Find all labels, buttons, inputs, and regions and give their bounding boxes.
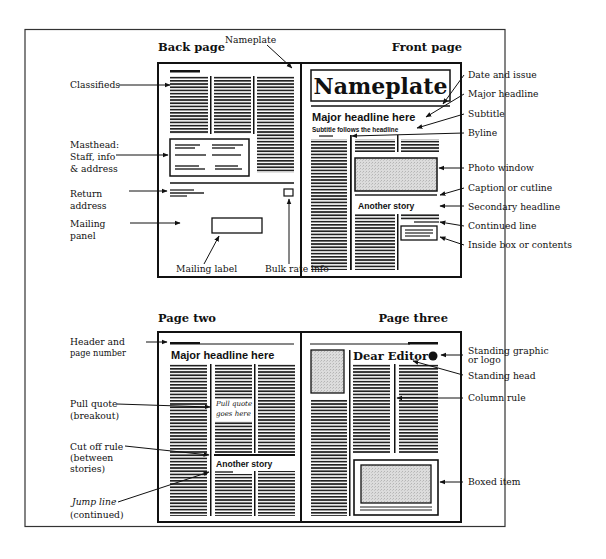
mailing-label-box: [212, 218, 262, 233]
label-return-address: Return address: [70, 188, 107, 211]
nameplate-callout-label: Nameplate: [225, 34, 276, 45]
label-photo-window: Photo window: [468, 162, 534, 173]
label-continued-line: Continued line: [468, 220, 536, 231]
page-two-headline: Major headline here: [171, 349, 274, 361]
label-byline: Byline: [468, 127, 497, 138]
front-secondary-headline: Another story: [358, 201, 415, 211]
front-subtitle: Subtitle follows the headline: [312, 126, 399, 133]
page-three: Dear Editor: [310, 342, 438, 516]
photo-window: [355, 158, 437, 191]
page-three-title: Page three: [378, 311, 448, 325]
nameplate-callout-arrow: [267, 45, 292, 68]
front-page-title: Front page: [392, 40, 462, 54]
label-mailing-label-text: Mailing label: [176, 263, 237, 274]
label-classifieds: Classifieds: [70, 79, 120, 90]
label-standing-graphic: Standing graphic or logo: [468, 345, 551, 365]
label-masthead: Masthead: Staff, info & address: [70, 139, 122, 174]
classifieds-column: [170, 76, 208, 134]
top-spread: Back page Front page Nameplate: [0, 0, 572, 277]
label-bulk-rate: Bulk rate info: [265, 263, 329, 274]
page-number-bar: [170, 342, 200, 345]
label-standing-head: Standing head: [468, 370, 536, 381]
label-pull-quote: Pull quote (breakout): [70, 398, 120, 421]
return-address-lines: [170, 190, 204, 196]
front-major-headline: Major headline here: [312, 111, 415, 123]
back-page-title: Back page: [158, 40, 225, 54]
back-page: [170, 70, 294, 233]
page-three-photo: [311, 350, 344, 393]
label-header-page-number: Header and page number: [70, 336, 128, 358]
label-inside-box: Inside box or contents: [468, 239, 572, 250]
bottom-spread: Page two Page three Major headline here …: [70, 311, 551, 522]
column-rule: [394, 364, 396, 453]
label-caption: Caption or cutline: [468, 182, 552, 193]
top-left-labels: Classifieds Masthead: Staff, info & addr…: [70, 79, 180, 241]
page-two: Major headline here Pull quote goes here…: [170, 342, 295, 516]
label-major-headline: Major headline: [468, 88, 539, 99]
newspaper-layout-diagram: Back page Front page Nameplate: [0, 0, 606, 559]
standing-graphic-icon: [429, 352, 438, 361]
label-cut-off-rule: Cut off rule (between stories): [70, 441, 126, 474]
label-subtitle: Subtitle: [468, 108, 505, 119]
label-secondary-headline: Secondary headline: [468, 201, 560, 212]
pull-quote: Pull quote goes here: [215, 400, 254, 418]
nameplate-text: Nameplate: [314, 73, 448, 99]
bulk-rate-box: [284, 189, 293, 196]
label-boxed-item: Boxed item: [468, 476, 521, 487]
front-page: Nameplate Major headline here Subtitle f…: [311, 70, 450, 270]
label-date-issue: Date and issue: [468, 69, 537, 80]
standing-head-text: Dear Editor: [353, 349, 429, 363]
label-mailing-panel: Mailing panel: [70, 218, 108, 241]
page-number-bar-right: [408, 342, 438, 345]
page-two-title: Page two: [158, 311, 216, 325]
label-column-rule: Column rule: [468, 392, 526, 403]
label-jump-line: Jump line (continued): [70, 496, 124, 520]
page-two-secondary-headline: Another story: [216, 459, 273, 469]
